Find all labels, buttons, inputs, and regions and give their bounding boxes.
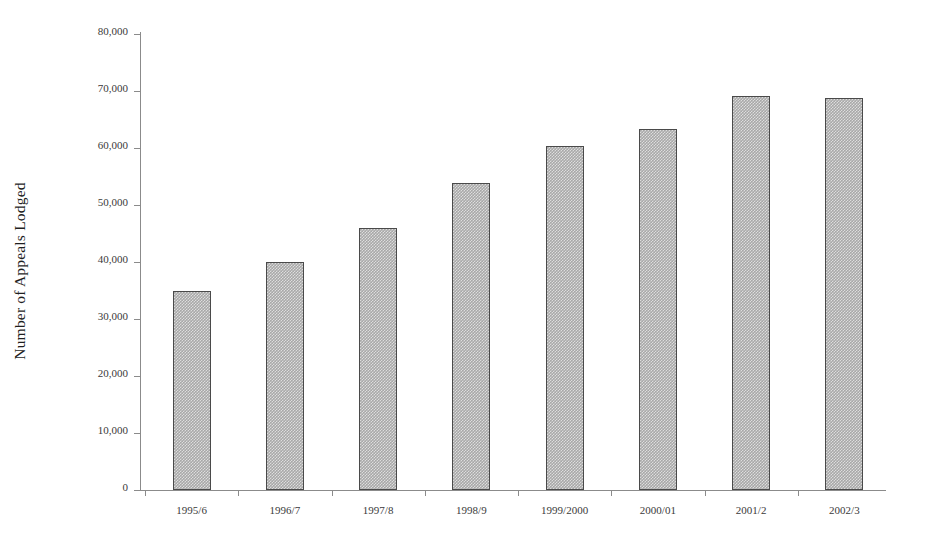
x-axis-tick-mark (705, 490, 706, 496)
bar (359, 228, 397, 490)
bar-chart: Number of Appeals Lodged 010,00020,00030… (0, 0, 932, 542)
y-axis-tick-label: 30,000 (98, 310, 128, 322)
x-axis-tick-mark (611, 490, 612, 496)
bar (173, 291, 211, 491)
bar (266, 262, 304, 490)
bar (732, 96, 770, 490)
bar (825, 98, 863, 490)
x-axis-tick-mark (798, 490, 799, 496)
bar (546, 146, 584, 490)
bars-container (140, 34, 886, 490)
bar (452, 183, 490, 490)
x-axis-tick-mark (518, 490, 519, 496)
y-axis-tick-label: 40,000 (98, 253, 128, 265)
x-axis-tick-mark (425, 490, 426, 496)
x-axis-tick-mark (145, 490, 146, 496)
y-axis-tick-label: 0 (123, 481, 129, 493)
y-axis-tick-label: 20,000 (98, 367, 128, 379)
x-axis-category-label: 2002/3 (789, 504, 899, 516)
bar (639, 129, 677, 490)
y-axis-tick-label: 80,000 (98, 25, 128, 37)
y-axis-tick-label: 70,000 (98, 82, 128, 94)
y-axis-title: Number of Appeals Lodged (0, 0, 40, 542)
y-axis-tick-label: 10,000 (98, 424, 128, 436)
x-axis-tick-mark (238, 490, 239, 496)
y-axis-tick-label: 60,000 (98, 139, 128, 151)
x-axis-ticks-and-labels: 1995/61996/71997/81998/91999/20002000/01… (140, 490, 886, 542)
x-axis-tick-mark (332, 490, 333, 496)
y-axis-tick-label: 50,000 (98, 196, 128, 208)
